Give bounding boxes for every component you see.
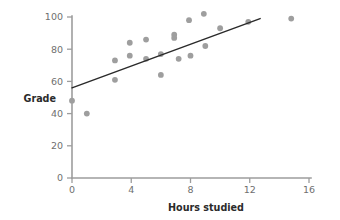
y-tick-label: 40 (51, 108, 63, 119)
scatter-chart: 020406080100 0481216 Grade Hours studied (0, 0, 340, 220)
x-tick-label: 8 (187, 184, 193, 195)
x-tick-label: 16 (303, 184, 315, 195)
data-point (127, 53, 133, 59)
data-point (288, 16, 294, 22)
data-point (201, 11, 207, 17)
data-point (176, 56, 182, 62)
x-tick-group: 0481216 (69, 178, 315, 195)
data-point (112, 58, 118, 64)
y-tick-label: 60 (51, 76, 63, 87)
data-point (188, 53, 194, 59)
data-point (143, 37, 149, 43)
data-point (186, 17, 192, 23)
x-tick-label: 12 (244, 184, 256, 195)
y-tick-label: 100 (45, 11, 63, 22)
y-tick-label: 20 (51, 140, 63, 151)
x-axis-title: Hours studied (168, 202, 244, 213)
x-axis: 0481216 (69, 178, 315, 195)
data-point (171, 35, 177, 41)
data-point (84, 111, 90, 117)
data-point (112, 77, 118, 83)
chart-canvas: 020406080100 0481216 Grade Hours studied (0, 0, 340, 220)
data-point (202, 43, 208, 49)
data-point-group (69, 11, 294, 117)
x-tick-label: 4 (128, 184, 134, 195)
data-point (69, 98, 75, 104)
y-axis-title: Grade (24, 93, 57, 104)
x-tick-label: 0 (69, 184, 75, 195)
y-tick-label: 0 (57, 172, 63, 183)
data-point (158, 72, 164, 78)
y-tick-label: 80 (51, 44, 63, 55)
data-point (127, 40, 133, 46)
trend-line (72, 19, 260, 88)
data-point (217, 25, 223, 31)
